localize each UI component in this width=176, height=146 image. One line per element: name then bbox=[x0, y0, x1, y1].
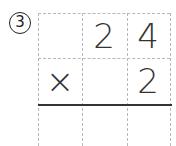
cell-r1c2-digit: 2 bbox=[126, 58, 170, 103]
problem-number-badge: 3 bbox=[9, 12, 31, 34]
cell-r0c1-digit: 2 bbox=[82, 13, 126, 58]
cell-r0c2-digit: 4 bbox=[126, 13, 170, 58]
answer-cell-1[interactable] bbox=[82, 106, 126, 146]
answer-cell-2[interactable] bbox=[126, 106, 170, 146]
cell-r1c1 bbox=[82, 58, 126, 103]
answer-cell-0[interactable] bbox=[38, 106, 82, 146]
cell-r0c0 bbox=[38, 13, 82, 58]
grid-vline bbox=[170, 13, 171, 146]
multiply-sign: × bbox=[38, 58, 82, 103]
